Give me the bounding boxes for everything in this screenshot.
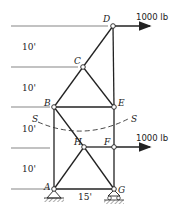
section-label-right: S bbox=[131, 114, 137, 124]
joint-label-c: C bbox=[74, 56, 81, 66]
load-label-d: 1000 lb bbox=[136, 12, 168, 22]
truss-members bbox=[54, 26, 114, 189]
joint-label-g: G bbox=[118, 185, 125, 195]
dim-label-1: 10' bbox=[22, 42, 36, 52]
section-cut-line bbox=[38, 118, 130, 131]
truss-svg: D C B E H F A G S S 1000 lb 1000 lb 10' … bbox=[0, 0, 180, 218]
dim-label-horizontal: 15' bbox=[78, 192, 92, 202]
truss-diagram: D C B E H F A G S S 1000 lb 1000 lb 10' … bbox=[0, 0, 180, 218]
joint-label-b: B bbox=[43, 98, 51, 108]
joint-label-f: F bbox=[103, 137, 111, 147]
section-label-left: S bbox=[32, 114, 38, 124]
dim-label-3: 10' bbox=[22, 124, 36, 134]
dim-label-2: 10' bbox=[22, 83, 36, 93]
dim-label-4: 10' bbox=[22, 164, 36, 174]
load-label-f: 1000 lb bbox=[136, 133, 168, 143]
joint-label-h: H bbox=[73, 137, 82, 147]
joint-label-d: D bbox=[102, 14, 110, 24]
joint-label-e: E bbox=[117, 98, 125, 108]
joint-label-a: A bbox=[43, 182, 51, 192]
